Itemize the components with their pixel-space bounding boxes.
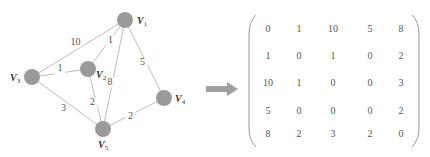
- edge-weight-label: 2: [128, 110, 133, 121]
- matrix-cell: 1: [287, 77, 311, 89]
- node-label-v4: V4: [175, 93, 186, 106]
- matrix-cell: 0: [256, 23, 280, 35]
- edge-weight-label: 8: [108, 76, 113, 87]
- node-label-v1: V1: [137, 15, 148, 28]
- matrix-cell: 10: [256, 77, 280, 89]
- weighted-graph: 101851232 V1V2V3V4V5: [0, 0, 200, 157]
- edge-weight-label: 5: [140, 56, 145, 67]
- adjacency-matrix: 011058101021010035000282320: [248, 14, 420, 148]
- node-label-v3: V3: [10, 72, 21, 85]
- matrix-cell: 3: [389, 77, 413, 89]
- right-arrow-icon: [206, 82, 238, 96]
- matrix-cell: 5: [256, 105, 280, 117]
- node-v3: [24, 69, 40, 85]
- matrix-cell: 1: [256, 50, 280, 62]
- edge-weight-label: 1: [108, 34, 113, 45]
- edge-v1-v3: [32, 20, 125, 77]
- node-v2: [80, 61, 96, 77]
- matrix-cell: 0: [358, 50, 382, 62]
- matrix-cell: 0: [321, 105, 345, 117]
- matrix-cell: 3: [321, 128, 345, 140]
- matrix-cell: 1: [321, 50, 345, 62]
- matrix-cell: 2: [389, 105, 413, 117]
- matrix-cell: 0: [287, 105, 311, 117]
- matrix-cell: 0: [321, 77, 345, 89]
- node-v4: [156, 90, 172, 106]
- edge-weight-label: 10: [71, 36, 81, 47]
- edge-weight-label: 3: [61, 102, 66, 113]
- matrix-cell: 2: [389, 50, 413, 62]
- matrix-cell: 5: [358, 23, 382, 35]
- matrix-cell: 1: [287, 23, 311, 35]
- matrix-cell: 0: [287, 50, 311, 62]
- edge-weight-label: 1: [58, 62, 63, 73]
- node-label-v2: V2: [96, 69, 107, 82]
- matrix-cell: 10: [321, 23, 345, 35]
- node-label-v5: V5: [98, 139, 109, 152]
- matrix-cell: 8: [389, 23, 413, 35]
- matrix-cell: 2: [287, 128, 311, 140]
- matrix-cell: 0: [389, 128, 413, 140]
- matrix-cell: 2: [358, 128, 382, 140]
- edge-weight-label: 2: [90, 96, 95, 107]
- matrix-cell: 0: [358, 77, 382, 89]
- matrix-cell: 0: [358, 105, 382, 117]
- node-v5: [95, 121, 111, 137]
- node-v1: [117, 12, 133, 28]
- matrix-cell: 8: [256, 128, 280, 140]
